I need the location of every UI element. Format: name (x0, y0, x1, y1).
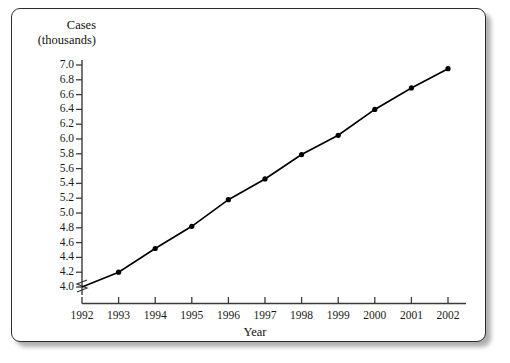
x-axis-tick-label: 1998 (290, 310, 313, 322)
y-axis-tick-label: 5.0 (34, 207, 74, 219)
y-axis-tick-label: 6.0 (34, 133, 74, 145)
data-point-marker (189, 224, 194, 229)
x-axis-title: Year (0, 325, 510, 340)
x-axis-tick-label: 1995 (180, 310, 203, 322)
x-axis-tick-label: 1993 (107, 310, 130, 322)
x-axis-tick-label: 1999 (327, 310, 350, 322)
y-axis-tick-label: 6.6 (34, 89, 74, 101)
x-axis-tick-label: 2002 (437, 310, 460, 322)
y-axis-tick-label: 4.0 (34, 281, 74, 293)
data-point-marker (409, 85, 414, 90)
y-axis-tick-label: 6.4 (34, 104, 74, 116)
data-point-marker (116, 270, 121, 275)
y-axis-tick-label: 5.6 (34, 163, 74, 175)
y-axis-tick-label: 5.2 (34, 192, 74, 204)
x-axis-tick-label: 1992 (71, 310, 94, 322)
y-axis-tick-label: 5.8 (34, 148, 74, 160)
y-axis-tick-label: 5.4 (34, 178, 74, 190)
data-point-marker (153, 246, 158, 251)
y-axis-tick-label: 7.0 (34, 59, 74, 71)
data-point-marker (299, 152, 304, 157)
y-axis-tick-label: 4.2 (34, 266, 74, 278)
x-axis-tick-label: 1997 (254, 310, 277, 322)
y-axis-tick-label: 6.8 (34, 74, 74, 86)
x-axis-tick-label: 2000 (363, 310, 386, 322)
x-axis-tick-label: 1994 (144, 310, 167, 322)
data-point-markers (116, 66, 451, 275)
axis-ticks (76, 65, 448, 304)
y-axis-tick-label: 4.8 (34, 222, 74, 234)
data-point-marker (226, 197, 231, 202)
chart-figure: Cases (thousands) 4.04.24.44.64.85.05.25… (0, 0, 510, 363)
data-point-marker (336, 133, 341, 138)
y-axis-tick-label: 4.4 (34, 252, 74, 264)
data-point-marker (372, 107, 377, 112)
y-axis-tick-label: 6.2 (34, 118, 74, 130)
x-axis-tick-label: 1996 (217, 310, 240, 322)
data-point-marker (445, 66, 450, 71)
data-point-marker (262, 176, 267, 181)
x-axis-tick-label: 2001 (400, 310, 423, 322)
y-axis-tick-label: 4.6 (34, 237, 74, 249)
